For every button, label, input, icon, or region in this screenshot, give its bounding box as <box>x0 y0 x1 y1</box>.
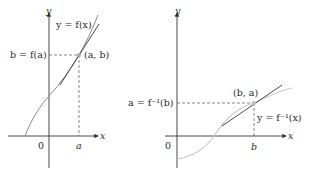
left-panel: y x 0 y = f(x) b = f(a) (a, b) a <box>8 5 109 168</box>
right-x-axis-label: x <box>288 130 294 141</box>
right-origin-label: 0 <box>165 140 171 151</box>
right-point-label: (b, a) <box>233 87 258 98</box>
left-curve-label: y = f(x) <box>55 19 92 30</box>
left-curve-f <box>25 15 98 136</box>
inverse-function-diagram: y x 0 y = f(x) b = f(a) (a, b) a y x 0 y… <box>0 0 310 175</box>
right-point-b-a <box>252 101 256 105</box>
left-x-axis-label: x <box>100 130 106 141</box>
left-point-label: (a, b) <box>84 49 109 60</box>
left-y-axis-label: y <box>45 5 52 16</box>
left-y-value-label: b = f(a) <box>10 49 47 60</box>
right-y-value-label: a = f⁻¹(b) <box>128 97 174 108</box>
left-x-value-label: a <box>76 140 82 151</box>
right-x-value-label: b <box>251 141 257 152</box>
right-curve-f-inverse <box>177 88 292 159</box>
left-origin-label: 0 <box>38 140 44 151</box>
right-y-axis-label: y <box>174 5 181 16</box>
right-panel: y x 0 y = f⁻¹(x) a = f⁻¹(b) (b, a) b <box>128 5 301 168</box>
right-curve-label: y = f⁻¹(x) <box>256 112 301 123</box>
left-point-a-b <box>77 53 81 57</box>
